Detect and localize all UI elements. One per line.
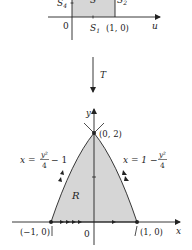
left-curve-equation: x = y² 4 − 1 [20, 151, 67, 170]
svg-text:y²: y² [158, 151, 166, 159]
label-s1: S1 [90, 23, 100, 34]
label-origin-top: 0 [63, 21, 69, 31]
transform-arrow: T [93, 57, 107, 92]
point-neg1-0 [49, 220, 53, 224]
top-figure: S4 S S2 0 S1 (1, 0) u [48, 0, 160, 40]
label-origin-bottom: 0 [84, 229, 90, 239]
label-transform-t: T [100, 70, 107, 80]
diagram-canvas: S4 S S2 0 S1 (1, 0) u T [0, 0, 192, 250]
label-axis-x: x [176, 226, 181, 236]
label-point-neg1-0: (−1, 0) [20, 227, 50, 237]
label-axis-u: u [152, 21, 158, 31]
label-axis-y: y [85, 108, 91, 118]
right-curve-equation: x = 1 − y² 4 [123, 151, 167, 170]
label-region-r: R [71, 190, 80, 201]
bottom-figure: y x (0, 2) (−1, 0) (1, 0) 0 R x = y² 4 −… [12, 108, 181, 245]
label-s4: S4 [57, 0, 67, 9]
label-point-0-2: (0, 2) [99, 129, 122, 139]
svg-text:x = 1 −: x = 1 − [123, 155, 157, 165]
label-point-1-0-bottom: (1, 0) [140, 227, 163, 237]
left-curve-extension [84, 123, 94, 133]
svg-text:x =: x = [20, 155, 35, 165]
point-1-0 [135, 220, 139, 224]
label-point-1-0-top: (1, 0) [106, 23, 129, 33]
svg-text:− 1: − 1 [51, 155, 67, 165]
svg-text:4: 4 [160, 161, 165, 170]
svg-text:y²: y² [40, 151, 48, 159]
label-s2: S2 [117, 0, 127, 6]
svg-text:4: 4 [42, 161, 47, 170]
label-s: S [90, 0, 96, 5]
point-0-2 [92, 131, 96, 135]
tick-1 [135, 226, 137, 236]
